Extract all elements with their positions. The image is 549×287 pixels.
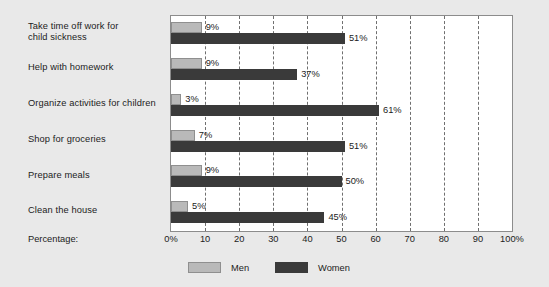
bar-value-label: 3% — [185, 94, 198, 105]
category-label: Prepare meals — [28, 170, 168, 182]
gridline — [444, 16, 445, 231]
x-tick-label: 80 — [439, 234, 449, 244]
x-tick-label: 10 — [200, 234, 210, 244]
legend-entry-women: Women — [275, 262, 350, 273]
bar-men — [171, 58, 202, 69]
category-label: Clean the house — [28, 205, 168, 217]
legend-label: Men — [231, 263, 249, 273]
bar-women — [171, 212, 324, 223]
category-label: Help with homework — [28, 62, 168, 74]
bar-men — [171, 130, 195, 141]
bar-men — [171, 201, 188, 212]
bar-value-label: 7% — [199, 130, 212, 141]
gridline — [410, 16, 411, 231]
bar-value-label: 51% — [349, 33, 368, 44]
legend-entry-men: Men — [188, 262, 249, 273]
bar-value-label: 9% — [206, 58, 219, 69]
bar-men — [171, 165, 202, 176]
gridline — [376, 16, 377, 231]
bar-women — [171, 105, 379, 116]
gridline — [478, 16, 479, 231]
x-axis-caption: Percentage: — [28, 234, 78, 244]
gridline — [205, 16, 206, 231]
gridline — [273, 16, 274, 231]
horizontal-bar-chart: Take time off work for child sickness He… — [0, 0, 549, 287]
x-tick-label: 40 — [302, 234, 312, 244]
category-label-column: Take time off work for child sickness He… — [0, 15, 168, 232]
bar-value-label: 9% — [206, 165, 219, 176]
bar-value-label: 61% — [383, 105, 402, 116]
chart-legend: Men Women — [188, 262, 350, 273]
legend-label: Women — [318, 263, 350, 273]
x-tick-label: 60 — [370, 234, 380, 244]
bar-men — [171, 22, 202, 33]
bar-value-label: 9% — [206, 22, 219, 33]
bar-value-label: 50% — [346, 176, 365, 187]
gridline — [307, 16, 308, 231]
x-axis-tick-labels: 0%102030405060708090100% — [170, 234, 513, 248]
category-label: Shop for groceries — [28, 134, 168, 146]
bar-women — [171, 141, 345, 152]
x-tick-label: 100% — [500, 234, 524, 244]
bar-women — [171, 33, 345, 44]
bar-men — [171, 94, 181, 105]
bar-women — [171, 69, 297, 80]
x-tick-label: 30 — [268, 234, 278, 244]
bar-value-label: 5% — [192, 201, 205, 212]
legend-swatch-women-icon — [275, 262, 308, 273]
x-tick-label: 0% — [164, 234, 177, 244]
category-label: Take time off work for child sickness — [28, 21, 168, 44]
x-tick-label: 70 — [405, 234, 415, 244]
gridline — [342, 16, 343, 231]
x-tick-label: 90 — [473, 234, 483, 244]
gridline — [239, 16, 240, 231]
x-tick-label: 20 — [234, 234, 244, 244]
legend-swatch-men-icon — [188, 262, 221, 273]
bar-women — [171, 176, 342, 187]
bar-value-label: 37% — [301, 69, 320, 80]
bar-value-label: 45% — [328, 212, 347, 223]
plot-area: 9%51%9%37%3%61%7%51%9%50%5%45% — [170, 15, 513, 232]
x-tick-label: 50 — [336, 234, 346, 244]
category-label: Organize activities for children — [28, 98, 168, 110]
bar-value-label: 51% — [349, 141, 368, 152]
